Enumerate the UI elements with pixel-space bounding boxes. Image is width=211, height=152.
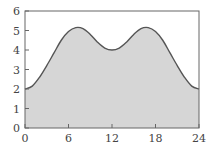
y-tick-label: 0 [13, 122, 20, 135]
x-tick-label: 18 [149, 132, 163, 145]
x-tick-label: 24 [192, 132, 206, 145]
plot-area [25, 11, 199, 128]
x-tick-label: 12 [105, 132, 119, 145]
x-tick-label: 0 [22, 132, 29, 145]
area-chart: 0123456 06121824 [0, 0, 211, 152]
y-tick-label: 6 [13, 5, 20, 18]
y-tick-label: 1 [13, 103, 20, 116]
area-fill [25, 27, 199, 128]
y-tick-label: 5 [13, 25, 20, 38]
x-tick-label: 6 [65, 132, 72, 145]
y-tick-label: 2 [13, 83, 20, 96]
y-tick-label: 4 [13, 44, 20, 57]
y-tick-label: 3 [13, 64, 20, 77]
